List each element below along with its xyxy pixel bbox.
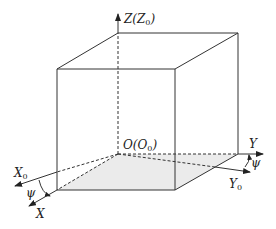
- psi-label-left: ψ: [26, 186, 36, 200]
- z-axis-label: Z(Z0): [123, 12, 155, 27]
- psi-label-right: ψ: [251, 156, 261, 170]
- cube-coordinate-diagram: Z(Z0) O(O0) X0 X Y Y0 ψ ψ: [0, 0, 276, 229]
- y0-label: Y0: [229, 177, 242, 192]
- psi-arc-left: [39, 180, 50, 196]
- origin-label: O(O0): [123, 138, 157, 153]
- x-label: X: [35, 207, 45, 221]
- y-label: Y: [249, 137, 258, 151]
- shaded-floor-region: [57, 154, 238, 190]
- x0-label: X0: [13, 166, 28, 181]
- psi-arc-right: [245, 155, 249, 167]
